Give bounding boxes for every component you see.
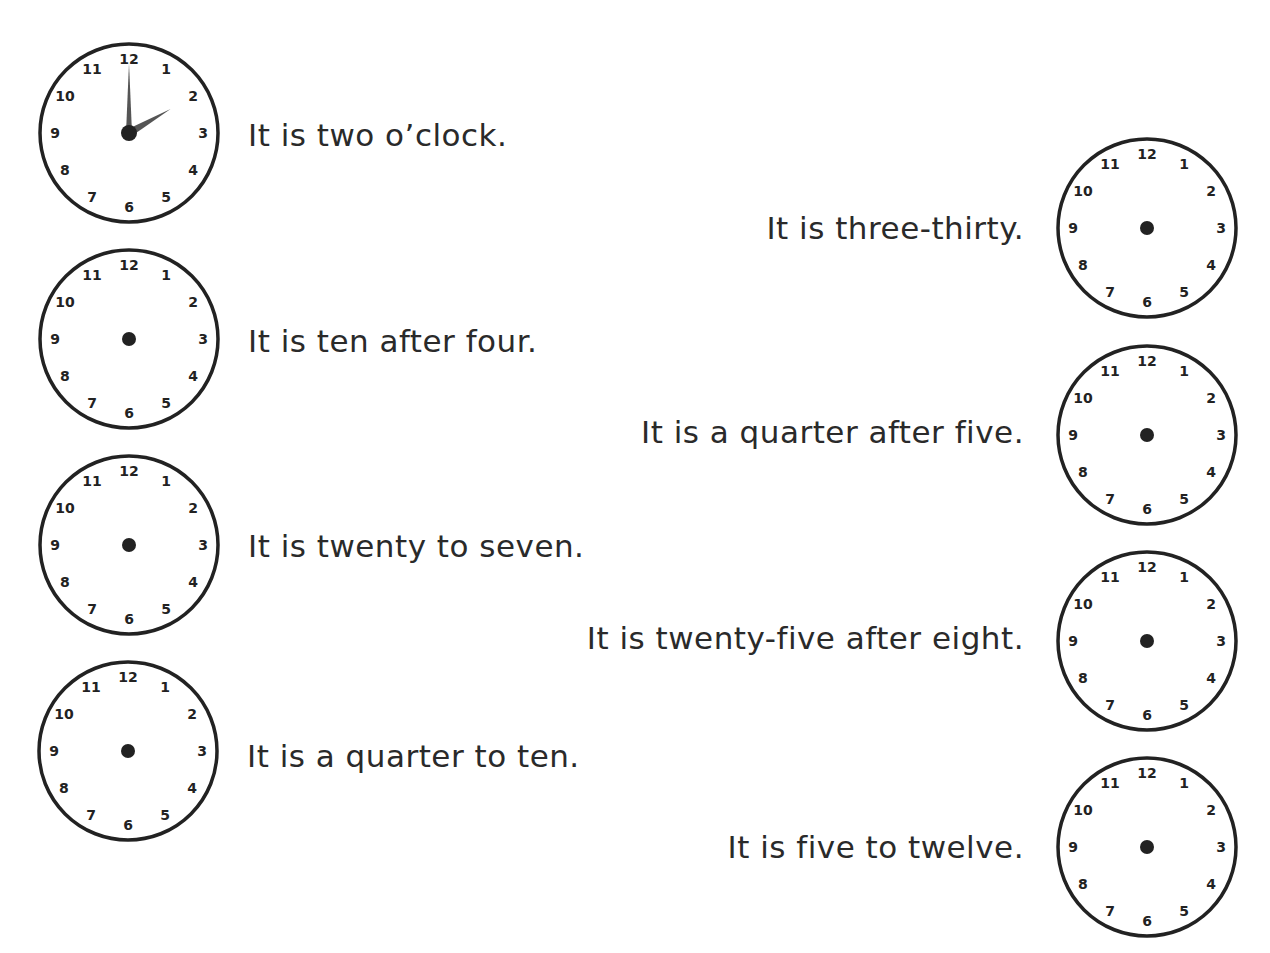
clock-number: 4 (1206, 670, 1216, 686)
clock-number: 8 (1078, 464, 1088, 480)
clock-number: 1 (1179, 363, 1189, 379)
clock-center-dot (1140, 634, 1154, 648)
clock-number: 7 (86, 807, 96, 823)
sentence-5: It is three-thirty. (766, 210, 1024, 246)
clock-number: 9 (1068, 220, 1078, 236)
clock-number: 8 (1078, 670, 1088, 686)
clock-number: 3 (1216, 839, 1226, 855)
clock-number: 3 (1216, 633, 1226, 649)
clock-number: 1 (161, 61, 171, 77)
clock-face-6: 121234567891011 (1054, 342, 1240, 528)
clock-number: 10 (1073, 390, 1093, 406)
clock-number: 6 (1142, 501, 1152, 517)
clock-number: 7 (87, 189, 97, 205)
clock-number: 12 (119, 463, 138, 479)
clock-face-3: 121234567891011 (36, 452, 222, 638)
clock-number: 6 (1142, 707, 1152, 723)
clock-number: 11 (82, 267, 101, 283)
clock-number: 10 (55, 500, 75, 516)
clock-number: 11 (1100, 363, 1119, 379)
clock-number: 6 (124, 405, 134, 421)
sentence-7: It is twenty-five after eight. (587, 620, 1024, 656)
clock-number: 11 (1100, 156, 1119, 172)
clock-number: 2 (1206, 596, 1216, 612)
clock-number: 1 (1179, 775, 1189, 791)
clock-number: 5 (161, 189, 171, 205)
clock-number: 7 (87, 395, 97, 411)
clock-number: 3 (198, 331, 208, 347)
clock-number: 8 (1078, 876, 1088, 892)
sentence-2: It is ten after four. (248, 323, 537, 359)
clock-number: 7 (1105, 491, 1115, 507)
clock-number: 10 (54, 706, 74, 722)
clock-number: 2 (1206, 390, 1216, 406)
clock-number: 6 (123, 817, 133, 833)
clock-number: 3 (198, 537, 208, 553)
clock-number: 3 (1216, 220, 1226, 236)
clock-number: 10 (1073, 183, 1093, 199)
clock-number: 8 (60, 574, 70, 590)
clock-number: 1 (161, 267, 171, 283)
clock-number: 4 (1206, 257, 1216, 273)
clock-number: 7 (1105, 697, 1115, 713)
clock-center-dot (122, 538, 136, 552)
clock-number: 10 (55, 88, 75, 104)
sentence-6: It is a quarter after five. (641, 414, 1024, 450)
clock-number: 7 (1105, 903, 1115, 919)
clock-number: 1 (1179, 156, 1189, 172)
sentence-3: It is twenty to seven. (248, 528, 584, 564)
clock-number: 9 (1068, 633, 1078, 649)
clock-number: 4 (1206, 876, 1216, 892)
clock-face-8: 121234567891011 (1054, 754, 1240, 940)
clock-number: 10 (1073, 596, 1093, 612)
clock-number: 5 (1179, 903, 1189, 919)
clock-number: 12 (118, 669, 137, 685)
sentence-8: It is five to twelve. (727, 829, 1024, 865)
clock-number: 5 (1179, 491, 1189, 507)
clock-number: 12 (1137, 146, 1156, 162)
clock-number: 1 (160, 679, 170, 695)
clock-number: 4 (188, 162, 198, 178)
clock-number: 9 (1068, 427, 1078, 443)
clock-number: 5 (1179, 697, 1189, 713)
clock-number: 4 (188, 574, 198, 590)
clock-number: 12 (1137, 765, 1156, 781)
clock-number: 11 (1100, 775, 1119, 791)
clock-number: 8 (60, 162, 70, 178)
clock-face-2: 121234567891011 (36, 246, 222, 432)
clock-center-dot (121, 744, 135, 758)
clock-number: 8 (60, 368, 70, 384)
clock-number: 11 (81, 679, 100, 695)
clock-number: 12 (1137, 559, 1156, 575)
clock-number: 1 (161, 473, 171, 489)
clock-number: 6 (124, 199, 134, 215)
sentence-4: It is a quarter to ten. (247, 738, 580, 774)
clock-number: 9 (50, 331, 60, 347)
sentence-1: It is two o’clock. (248, 117, 507, 153)
clock-number: 9 (50, 125, 60, 141)
clock-number: 5 (161, 395, 171, 411)
clock-number: 2 (188, 500, 198, 516)
clock-number: 2 (188, 88, 198, 104)
clock-center-dot (1140, 221, 1154, 235)
clock-number: 11 (82, 473, 101, 489)
clock-number: 6 (124, 611, 134, 627)
clock-number: 10 (1073, 802, 1093, 818)
clock-number: 7 (1105, 284, 1115, 300)
clock-number: 4 (1206, 464, 1216, 480)
clock-number: 5 (1179, 284, 1189, 300)
clock-number: 10 (55, 294, 75, 310)
clock-face-7: 121234567891011 (1054, 548, 1240, 734)
clock-number: 8 (59, 780, 69, 796)
clock-number: 2 (187, 706, 197, 722)
clock-center-dot (121, 125, 137, 141)
clock-center-dot (122, 332, 136, 346)
clock-number: 3 (197, 743, 207, 759)
clock-number: 12 (119, 257, 138, 273)
clock-number: 11 (82, 61, 101, 77)
clock-face-5: 121234567891011 (1054, 135, 1240, 321)
clock-face-4: 121234567891011 (35, 658, 221, 844)
clock-number: 2 (188, 294, 198, 310)
clock-number: 9 (1068, 839, 1078, 855)
clock-number: 11 (1100, 569, 1119, 585)
